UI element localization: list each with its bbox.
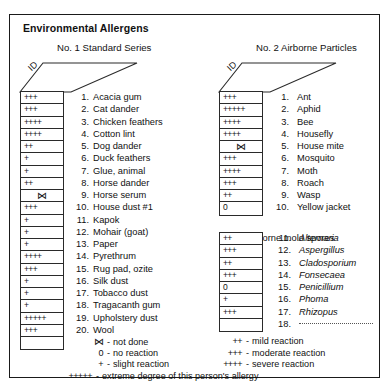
item-name: Rug pad, ozite — [93, 264, 153, 274]
legend-text: not done — [113, 337, 148, 347]
airborne-particles-id-cell: ++ — [220, 190, 262, 202]
item-number: 3. — [272, 116, 289, 128]
legend-column-right: ++-mild reaction+++-moderate reaction+++… — [206, 336, 325, 371]
mold-spores-item-row: 12.Aspergillus — [272, 244, 373, 256]
airborne-particles-item-row: 1.Ant — [272, 91, 350, 103]
item-number: 9. — [72, 189, 89, 201]
standard-series-id-cell: + — [21, 276, 63, 288]
item-number: 2. — [72, 103, 89, 115]
id-label-right: ID — [225, 60, 238, 73]
mold-spores-id-cell: +++ — [220, 307, 262, 319]
item-name: Pyrethrum — [93, 251, 136, 261]
standard-series-id-cell: ++++ — [21, 251, 63, 263]
item-number: 12. — [272, 244, 291, 256]
item-number: 20. — [72, 324, 89, 336]
airborne-particles-id-cell: +++ — [220, 178, 262, 190]
airborne-particles-id-cell: +++ — [220, 92, 262, 104]
standard-series-id-cell: ++++ — [21, 129, 63, 141]
item-name: Mohair (goat) — [93, 227, 148, 237]
airborne-particles-id-cell: +++++ — [220, 104, 262, 116]
item-name: Alternaria — [299, 233, 339, 243]
mold-spores-item-row: 18. — [272, 318, 373, 330]
mold-spores-id-cell: ++ — [220, 258, 262, 270]
legend-right-entry: ++++-severe reaction — [206, 359, 325, 371]
item-name: Horse dander — [93, 178, 149, 188]
standard-series-id-cell: + — [21, 227, 63, 239]
item-number: 19. — [72, 312, 89, 324]
item-name: Acacia gum — [93, 92, 142, 102]
mold-spores-item-row: 11.Alternaria — [272, 232, 373, 244]
standard-series-id-cell: +++ — [21, 104, 63, 116]
standard-series-item-row: 13.Paper — [72, 238, 163, 250]
item-number: 10. — [272, 201, 289, 213]
item-name: House dust #1 — [93, 202, 153, 212]
standard-series-item-row: 2.Cat dander — [72, 103, 163, 115]
mold-spores-item-row: 16.Phoma — [272, 293, 373, 305]
item-name: Aspergillus — [299, 245, 344, 255]
standard-series-item-row: 1.Acacia gum — [72, 91, 163, 103]
legend-left-entry: ⋈-not done — [65, 336, 169, 348]
item-number: 13. — [72, 238, 89, 250]
mold-spores-item-row: 13.Cladosporium — [272, 257, 373, 269]
standard-series-item-row: 6.Duck feathers — [72, 152, 163, 164]
item-number: 5. — [272, 140, 289, 152]
legend-text: no reaction — [113, 348, 158, 358]
standard-series-item-row: 19.Upholstery dust — [72, 312, 163, 324]
item-name: Housefly — [297, 129, 333, 139]
mold-spores-id-cell: ++ — [220, 233, 262, 245]
legend-dash: - — [246, 359, 249, 369]
item-number: 16. — [272, 293, 291, 305]
legend-right-entry: +++-moderate reaction — [206, 348, 325, 360]
item-name: Wasp — [297, 190, 320, 200]
legend-symbol: +++ — [206, 348, 242, 360]
item-name: Glue, animal — [93, 166, 145, 176]
airborne-particles-item-row: 6.Mosquito — [272, 152, 350, 164]
standard-series-id-cell: +++ — [21, 325, 63, 337]
legend-left-entry: 0-no reaction — [65, 348, 169, 360]
mold-spores-item-row: 17.Rhizopus — [272, 306, 373, 318]
standard-series-item-row: 12.Mohair (goat) — [72, 226, 163, 238]
item-number: 1. — [272, 91, 289, 103]
blank-entry-dotted-line — [299, 323, 373, 324]
mold-spores-id-cell: +++ — [220, 270, 262, 282]
item-number: 12. — [72, 226, 89, 238]
item-name: Cat dander — [93, 104, 139, 114]
standard-series-id-cell — [21, 337, 63, 349]
item-list-airborne-particles: 1.Ant2.Aphid3.Bee4.Housefly5.House mite6… — [272, 91, 350, 214]
not-done-icon: ⋈ — [236, 141, 246, 152]
standard-series-id-cell: +++ — [21, 92, 63, 104]
legend-symbol: ++++ — [206, 359, 242, 371]
mold-spores-id-cell: +++ — [220, 245, 262, 257]
legend-column-left: ⋈-not done0-no reaction+-slight reaction — [65, 336, 169, 371]
item-number: 1. — [72, 91, 89, 103]
item-number: 7. — [272, 165, 289, 177]
legend-dash: - — [107, 337, 110, 347]
item-number: 16. — [72, 275, 89, 287]
item-name: Cotton lint — [93, 129, 135, 139]
page-title: Environmental Allergens — [23, 22, 149, 34]
item-number: 9. — [272, 189, 289, 201]
legend-dash: - — [246, 348, 249, 358]
standard-series-id-cell: ++++ — [21, 117, 63, 129]
item-number: 6. — [272, 152, 289, 164]
item-number: 4. — [72, 128, 89, 140]
legend-right-entry: ++-mild reaction — [206, 336, 325, 348]
mold-spores-id-cell: 0 — [220, 282, 262, 294]
standard-series-item-row: 7.Glue, animal — [72, 165, 163, 177]
standard-series-id-cell: +++++ — [21, 313, 63, 325]
item-number: 8. — [72, 177, 89, 189]
legend-dash: - — [107, 359, 110, 369]
item-number: 2. — [272, 103, 289, 115]
legend-extreme-row: +++++-extreme degree of this person's al… — [32, 371, 258, 383]
not-done-icon: ⋈ — [37, 190, 47, 201]
not-done-icon: ⋈ — [94, 336, 103, 347]
item-name: Rhizopus — [299, 307, 338, 317]
item-name: Upholstery dust — [93, 313, 158, 323]
airborne-particles-item-row: 4.Housefly — [272, 128, 350, 140]
id-column-lid-right: ID — [218, 61, 262, 91]
standard-series-item-row: 14.Pyrethrum — [72, 250, 163, 262]
airborne-particles-item-row: 7.Moth — [272, 165, 350, 177]
item-name: Silk dust — [93, 276, 128, 286]
item-name: Duck feathers — [93, 153, 150, 163]
item-list-mold-spores: 11.Alternaria12.Aspergillus13.Cladospori… — [272, 232, 373, 330]
